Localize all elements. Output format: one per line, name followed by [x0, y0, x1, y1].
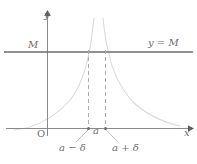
origin-label: O	[37, 129, 45, 139]
function-curve-left-branch	[14, 18, 94, 130]
left-bound-label: a − δ	[59, 143, 86, 153]
horizontal-line-label: y = M	[148, 38, 179, 48]
function-curve-right-branch	[103, 18, 180, 126]
m-value-label: M	[28, 40, 38, 50]
limit-diagram: y M y = M O x a a − δ a + δ	[0, 0, 197, 164]
tick-marker-a-plus-delta	[104, 127, 107, 130]
tick-marker-a-minus-delta	[87, 127, 90, 130]
diagram-canvas	[0, 0, 197, 164]
x-axis-label: x	[184, 128, 190, 138]
leader-line-a-plus-delta	[106, 130, 118, 142]
leader-line-a-minus-delta	[76, 130, 88, 142]
center-point-label: a	[93, 126, 99, 136]
right-bound-label: a + δ	[112, 143, 139, 153]
y-axis-label: y	[44, 10, 50, 20]
